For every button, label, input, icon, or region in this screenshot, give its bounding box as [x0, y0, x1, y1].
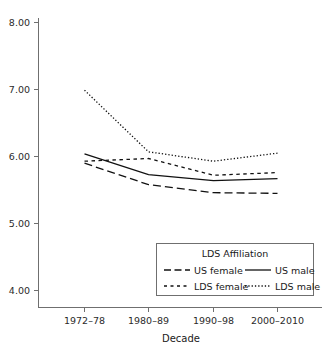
x-tick-label: 2000–2010 — [251, 315, 304, 326]
legend-title: LDS Affiliation — [202, 248, 269, 259]
x-tick-label: 1980–89 — [128, 315, 169, 326]
x-tick-label: 1990–98 — [193, 315, 234, 326]
line-chart: 8.00 7.00 6.00 5.00 4.00 1972–78 1980–89… — [0, 0, 335, 353]
y-tick-label: 5.00 — [9, 218, 30, 229]
legend-label-lds-male[interactable]: LDS male — [275, 281, 320, 292]
legend-label-lds-female[interactable]: LDS female — [194, 281, 249, 292]
y-tick-label: 6.00 — [9, 151, 30, 162]
x-tick-label: 1972–78 — [64, 315, 105, 326]
x-axis-title: Decade — [162, 333, 200, 344]
chart-canvas: 8.00 7.00 6.00 5.00 4.00 1972–78 1980–89… — [0, 0, 335, 353]
y-tick-label: 4.00 — [9, 285, 30, 296]
legend-label-us-female[interactable]: US female — [194, 265, 243, 276]
chart-legend: LDS Affiliation US female US male LDS fe… — [157, 244, 321, 296]
y-tick-label: 8.00 — [9, 17, 30, 28]
y-tick-label: 7.00 — [9, 84, 30, 95]
legend-label-us-male[interactable]: US male — [275, 265, 315, 276]
